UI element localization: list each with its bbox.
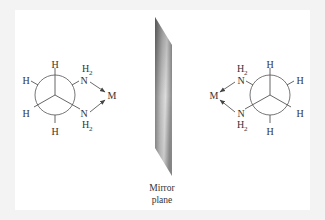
h-label-bottom: H <box>51 126 58 137</box>
h-label-upper-left: H <box>22 75 29 86</box>
nh2-top-subscript: 2 <box>89 69 93 77</box>
n-label-bottom: N <box>80 108 87 119</box>
h-label-upper-right: H <box>296 75 303 86</box>
mirror-plane: Mirror plane <box>149 17 175 205</box>
metal-label: M <box>108 90 117 101</box>
h-label-top: H <box>51 59 58 70</box>
coordination-arrow-top <box>220 82 235 92</box>
front-bond-lower-right <box>55 95 80 109</box>
nh2-bottom-subscript: 2 <box>89 125 93 133</box>
back-bond-upper-left <box>246 81 253 85</box>
n-label-top: N <box>80 75 87 86</box>
right-newman-projection: H H H H H 2 N N H 2 M <box>210 59 304 137</box>
n-label-top: N <box>237 75 244 86</box>
nh2-bottom-subscript: 2 <box>244 125 248 133</box>
metal-label: M <box>210 90 219 101</box>
h-label-bottom: H <box>266 126 273 137</box>
front-bond-lower-left <box>245 95 270 109</box>
back-bond-upper-right <box>287 81 294 85</box>
h-label-lower-left: H <box>22 108 29 119</box>
h-label-top: H <box>266 59 273 70</box>
enantiomer-diagram: H H H H H 2 N N H 2 M Mirror plane H H <box>0 0 325 220</box>
front-bond-lower-right <box>270 95 291 107</box>
mirror-caption-line2: plane <box>152 195 173 205</box>
back-bond-upper-right <box>72 81 79 85</box>
coordination-arrow-bottom <box>90 100 105 112</box>
front-bond-lower-left <box>34 95 55 107</box>
left-newman-projection: H H H H H 2 N N H 2 M <box>22 59 116 137</box>
coordination-arrow-bottom <box>220 100 235 112</box>
mirror-caption-line1: Mirror <box>149 183 175 193</box>
back-bond-upper-left <box>31 81 38 85</box>
n-label-bottom: N <box>237 108 244 119</box>
mirror-plane-shading <box>155 17 172 176</box>
coordination-arrow-top <box>90 82 105 92</box>
h-label-lower-right: H <box>296 108 303 119</box>
